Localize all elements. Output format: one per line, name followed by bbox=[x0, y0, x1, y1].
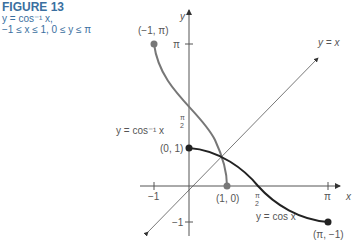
svg-text:(0, 1): (0, 1) bbox=[160, 143, 183, 154]
svg-text:2: 2 bbox=[255, 200, 259, 207]
figure: FIGURE 13 y = cos⁻¹ x, −1 ≤ x ≤ 1, 0 ≤ y… bbox=[0, 0, 361, 243]
svg-text:(π, −1): (π, −1) bbox=[313, 229, 344, 240]
svg-text:(−1, π): (−1, π) bbox=[138, 25, 169, 36]
svg-text:−1: −1 bbox=[172, 217, 184, 228]
svg-text:(1, 0): (1, 0) bbox=[216, 193, 239, 204]
svg-text:y: y bbox=[179, 11, 186, 22]
svg-text:π: π bbox=[173, 39, 180, 50]
svg-text:π: π bbox=[324, 191, 331, 202]
svg-text:π: π bbox=[255, 192, 260, 199]
svg-text:y = x: y = x bbox=[317, 37, 340, 48]
svg-text:π: π bbox=[180, 114, 185, 121]
svg-text:y = cos x: y = cos x bbox=[256, 211, 296, 222]
svg-text:x: x bbox=[345, 191, 352, 202]
svg-text:−1: −1 bbox=[148, 191, 160, 202]
acos-curve bbox=[154, 44, 227, 186]
svg-text:2: 2 bbox=[180, 122, 184, 129]
plot: (−1, π) (0, 1) (1, 0) (π, −1) y = cos⁻¹ … bbox=[0, 0, 361, 243]
svg-text:y = cos⁻¹ x: y = cos⁻¹ x bbox=[116, 125, 164, 136]
